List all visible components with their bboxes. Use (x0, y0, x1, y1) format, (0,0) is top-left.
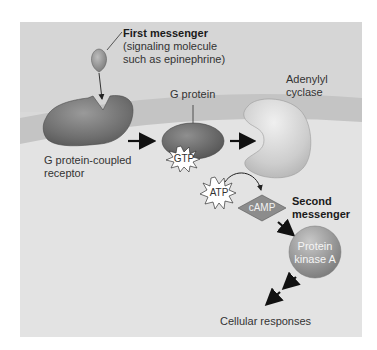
kinase-label-line2: kinase A (289, 253, 341, 265)
g-protein-label: G protein (170, 88, 215, 100)
adenylyl-cyclase-label-line1: Adenylyl (286, 73, 328, 85)
receptor-label-line1: G protein-coupled (44, 154, 131, 166)
kinase-label-line1: Protein (289, 240, 341, 252)
protein-kinase-a (289, 226, 341, 278)
second-messenger-label-line1: Second (292, 195, 332, 207)
cellular-responses-label: Cellular responses (220, 315, 311, 327)
receptor-label-line2: receptor (44, 167, 84, 179)
first-messenger-desc-line1: (signaling molecule (123, 40, 217, 52)
second-messenger-label-line2: messenger (292, 208, 350, 220)
adenylyl-cyclase-label-line2: cyclase (286, 86, 323, 98)
gtp-label: GTP (170, 153, 198, 165)
first-messenger-desc-line2: such as epinephrine) (123, 53, 225, 65)
first-messenger-title: First messenger (123, 27, 208, 39)
camp-label: cAMP (240, 202, 284, 214)
atp-label: ATP (204, 187, 234, 199)
